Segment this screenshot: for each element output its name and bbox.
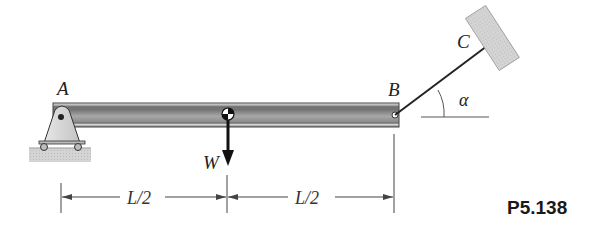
label-point-b: B [388, 80, 400, 99]
cable-bc [395, 46, 487, 115]
label-angle-alpha: α [459, 91, 468, 109]
label-point-a: A [57, 79, 69, 98]
label-weight: W [203, 153, 219, 172]
center-of-gravity-icon [222, 108, 234, 120]
label-point-c: C [457, 32, 470, 51]
diagram-canvas: A B C W α L/2 L/2 P5.138 [0, 0, 612, 232]
dimension-label-right: L/2 [292, 189, 322, 207]
dimension-label-left: L/2 [124, 189, 154, 207]
wall-c [465, 5, 519, 70]
problem-number: P5.138 [507, 198, 567, 217]
ground-block [29, 148, 91, 162]
angle-arc [438, 90, 444, 117]
